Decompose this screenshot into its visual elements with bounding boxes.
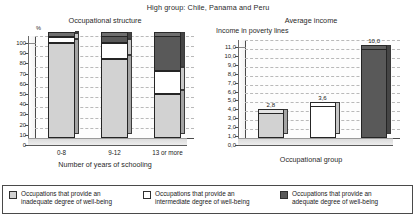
chart-title-right: Average income [208,16,414,25]
legend-swatch-adequate [280,191,288,199]
y-tick-label: 6,0 [210,89,236,95]
y-tick-mark [235,92,238,93]
legend-item: Occupations that provide an inadequate d… [9,190,112,207]
bar-top-face [154,32,181,36]
y-tick-mark [25,84,28,85]
y-tick-mark [235,145,238,146]
legend-item: Occupations that provide an adequate deg… [280,190,378,207]
y-tick-mark [235,109,238,110]
y-tick-label: 8,0 [210,71,236,77]
bar-body [361,49,387,138]
bar-value-label: 10,0 [358,37,390,44]
y-tick-mark [25,74,28,75]
y-tick-label: 4,0 [210,106,236,112]
figure-root: High group: Chile, Panama and Peru Occup… [0,0,416,217]
y-tick-label: 30 [4,111,26,117]
x-axis-title-right: Occupational group [208,155,414,164]
bar-body [258,113,284,138]
bar-value-label: 2,8 [255,101,287,108]
bar-segment [101,43,128,59]
figure-title: High group: Chile, Panama and Peru [0,3,416,12]
y-tick-mark [235,127,238,128]
bar-body [310,106,336,138]
y-tick-label: 0 [4,142,26,148]
y-tick-label: 9,0 [210,62,236,68]
y-tick-mark [25,104,28,105]
legend-label: Occupations that provide an inadequate d… [21,190,112,207]
y-tick-label: 7,0 [210,80,236,86]
bar [361,40,387,138]
y-tick-label: 2,0 [210,124,236,130]
plot-floor-left [28,138,187,146]
y-tick-mark [235,136,238,137]
legend-swatch-inadequate [9,191,17,199]
y-tick-label: 90 [4,50,26,56]
y-tick-mark [25,43,28,44]
y-tick-mark [235,47,238,48]
stacked-bar [101,36,128,138]
panel-occupational-structure: Occupational structure % 010203040506070… [2,14,208,174]
bar-segment [101,59,128,138]
y-tick-mark [235,118,238,119]
y-tick-label: 20 [4,122,26,128]
bar-side-face [336,102,340,134]
y-axis-unit-left: % [36,25,41,31]
y-tick-mark [235,83,238,84]
y-tick-label: 60 [4,81,26,87]
x-tick-label: 9-12 [93,149,137,156]
y-tick-label: 3,0 [210,115,236,121]
y-tick-mark [235,65,238,66]
bar-segment-side [128,55,132,134]
y-tick-mark [25,53,28,54]
y-tick-mark [25,63,28,64]
plot-area-right: 2,83,610,0 [238,40,400,146]
bar-segment-side [181,67,185,90]
x-tick-label: 0-8 [40,149,84,156]
y-tick-mark [235,74,238,75]
bar-segment [48,43,75,138]
bar-segment-side [75,33,79,39]
y-tick-mark [25,114,28,115]
y-tick-label: 40 [4,101,26,107]
bar-segment-side [181,32,185,67]
bar-top-face [48,32,75,36]
bar-top-face [361,45,387,49]
bar [310,40,336,138]
y-tick-mark [235,56,238,57]
bar-segment [101,36,128,43]
panel-average-income: Average income Income in poverty lines 2… [208,14,414,174]
y-tick-label: 5,0 [210,97,236,103]
bar-segment-side [75,39,79,134]
bar-top-face [258,109,284,113]
bar-segment-side [128,32,132,39]
legend-label: Occupations that provide an intermediate… [155,190,250,207]
plot-depth-wall-right [238,40,245,139]
y-tick-label: 50 [4,91,26,97]
stacked-bar [154,36,181,138]
chart-title-left: Occupational structure [2,16,208,25]
y-tick-label: 10,0 [210,53,236,59]
legend: Occupations that provide an inadequate d… [2,185,413,214]
bar-segment [154,94,181,138]
y-tick-mark [25,125,28,126]
y-tick-label: 1,0 [210,133,236,139]
x-tick-label: 13 or more [146,149,190,156]
y-tick-mark [25,145,28,146]
bar-top-face [310,102,336,106]
y-axis-title-right: Income in poverty lines [216,27,289,35]
x-axis-title-left: Number of years of schooling [2,160,208,169]
bar-side-face [284,109,288,134]
y-tick-label: 11,0 [210,44,236,50]
plot-depth-wall-left [28,36,35,139]
bar-segment [48,37,75,43]
legend-label: Occupations that provide an adequate deg… [292,190,378,207]
bar-segment [154,36,181,71]
y-tick-label: 70 [4,71,26,77]
legend-item: Occupations that provide an intermediate… [143,190,250,207]
y-tick-label: 100 [4,40,26,46]
bar-side-face [387,45,391,134]
bar-value-label: 3,6 [307,94,339,101]
y-tick-label: 80 [4,60,26,66]
y-tick-mark [235,100,238,101]
bar-segment-side [181,90,185,134]
